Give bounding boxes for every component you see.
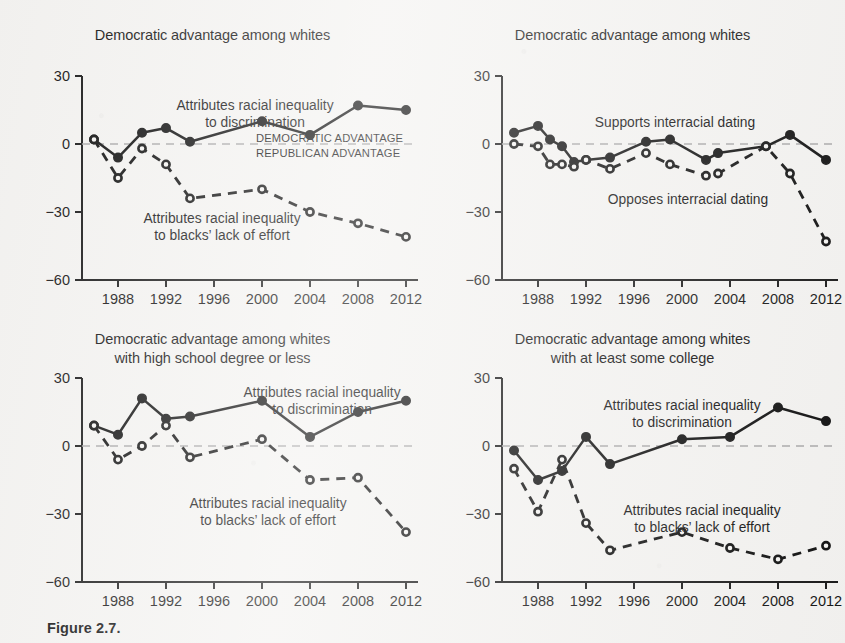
panel-top-right: Democratic advantage among whites 300−30… xyxy=(420,14,845,314)
data-point-marker xyxy=(822,238,829,245)
x-tick-label: 1992 xyxy=(570,593,602,609)
data-point-marker xyxy=(786,131,794,139)
series-annotation: Attributes racial inequality xyxy=(176,98,333,113)
x-tick-label: 2000 xyxy=(666,291,698,307)
x-tick-label: 2012 xyxy=(390,593,422,609)
y-tick-label: −30 xyxy=(465,204,490,220)
y-tick-label: 30 xyxy=(474,68,490,84)
data-point-marker xyxy=(354,101,362,109)
y-tick-label: −30 xyxy=(465,506,490,522)
data-point-marker xyxy=(774,556,781,563)
series-annotation: Attributes racial inequality xyxy=(189,496,346,511)
series-annotation: to discrimination xyxy=(205,115,305,130)
data-point-marker xyxy=(510,465,517,472)
x-tick-label: 2008 xyxy=(762,593,794,609)
data-point-marker xyxy=(306,476,313,483)
x-tick-label: 1996 xyxy=(618,291,650,307)
series-annotation: to blacks’ lack of effort xyxy=(200,513,336,528)
x-tick-label: 2008 xyxy=(342,593,374,609)
data-point-marker xyxy=(258,186,265,193)
data-point-marker xyxy=(138,129,146,137)
data-point-marker xyxy=(714,149,722,157)
series-annotation: Supports interracial dating xyxy=(595,115,755,130)
democratic-advantage-note: DEMOCRATIC ADVANTAGE xyxy=(256,132,403,144)
data-point-marker xyxy=(402,397,410,405)
data-point-marker xyxy=(606,165,613,172)
series-annotation: to blacks’ lack of effort xyxy=(154,228,290,243)
data-point-marker xyxy=(726,433,734,441)
data-point-marker xyxy=(162,422,169,429)
data-point-marker xyxy=(558,142,566,150)
data-point-marker xyxy=(186,138,194,146)
x-tick-label: 1988 xyxy=(102,291,134,307)
series-annotation: to blacks’ lack of effort xyxy=(634,520,770,535)
data-point-marker xyxy=(582,433,590,441)
x-tick-label: 2000 xyxy=(246,593,278,609)
series-annotation: Attributes racial inequality xyxy=(603,398,760,413)
x-tick-label: 2004 xyxy=(294,593,326,609)
panel-top-left: Democratic advantage among whites 300−30… xyxy=(0,14,425,314)
data-point-marker xyxy=(726,544,733,551)
data-point-marker xyxy=(666,161,673,168)
data-point-marker xyxy=(666,135,674,143)
data-point-marker xyxy=(186,454,193,461)
data-point-marker xyxy=(90,136,97,143)
x-tick-label: 1992 xyxy=(150,291,182,307)
series-annotation: to discrimination xyxy=(632,415,732,430)
data-point-marker xyxy=(702,172,709,179)
x-tick-label: 2000 xyxy=(246,291,278,307)
panel-bottom-right-plot: 300−30−601988199219962000200420082012Att… xyxy=(420,330,845,630)
panel-bottom-left: Democratic advantage among whites with h… xyxy=(0,330,425,630)
panel-top-left-plot: 300−30−601988199219962000200420082012Att… xyxy=(0,14,425,314)
data-point-marker xyxy=(138,442,145,449)
data-point-marker xyxy=(114,174,121,181)
data-point-marker xyxy=(138,145,145,152)
data-point-marker xyxy=(186,195,193,202)
x-tick-label: 2008 xyxy=(762,291,794,307)
data-point-marker xyxy=(534,476,542,484)
series-annotation: to discrimination xyxy=(272,402,372,417)
x-tick-label: 1996 xyxy=(618,593,650,609)
data-point-marker xyxy=(582,156,589,163)
x-tick-label: 1988 xyxy=(522,593,554,609)
y-tick-label: 0 xyxy=(62,136,70,152)
x-tick-label: 1996 xyxy=(198,291,230,307)
y-tick-label: 30 xyxy=(54,370,70,386)
x-tick-label: 2004 xyxy=(714,291,746,307)
y-tick-label: 0 xyxy=(62,438,70,454)
data-point-marker xyxy=(558,161,565,168)
data-point-marker xyxy=(402,233,409,240)
data-point-marker xyxy=(702,156,710,164)
x-tick-label: 1992 xyxy=(150,593,182,609)
data-point-marker xyxy=(510,446,518,454)
data-point-marker xyxy=(510,140,517,147)
x-tick-label: 2004 xyxy=(294,291,326,307)
data-point-marker xyxy=(606,460,614,468)
figure-caption: Figure 2.7. xyxy=(47,620,121,636)
data-point-marker xyxy=(642,150,649,157)
data-point-marker xyxy=(774,403,782,411)
series-annotation: Attributes racial inequality xyxy=(143,211,300,226)
series-annotation: Opposes interracial dating xyxy=(608,192,768,207)
data-point-marker xyxy=(642,138,650,146)
data-point-marker xyxy=(558,456,565,463)
data-point-marker xyxy=(822,156,830,164)
x-tick-label: 1992 xyxy=(570,291,602,307)
data-point-marker xyxy=(162,124,170,132)
series-annotation: Attributes racial inequality xyxy=(243,385,400,400)
data-point-marker xyxy=(678,435,686,443)
x-tick-label: 1988 xyxy=(522,291,554,307)
data-point-marker xyxy=(114,431,122,439)
y-tick-label: 0 xyxy=(482,438,490,454)
data-point-marker xyxy=(114,456,121,463)
x-tick-label: 2000 xyxy=(666,593,698,609)
y-tick-label: 30 xyxy=(474,370,490,386)
data-point-marker xyxy=(606,153,614,161)
panel-top-right-plot: 300−30−601988199219962000200420082012Sup… xyxy=(420,14,845,314)
x-tick-label: 2008 xyxy=(342,291,374,307)
y-tick-label: 30 xyxy=(54,68,70,84)
data-point-marker xyxy=(534,122,542,130)
data-point-marker xyxy=(258,436,265,443)
data-point-marker xyxy=(534,143,541,150)
data-point-marker xyxy=(546,161,553,168)
